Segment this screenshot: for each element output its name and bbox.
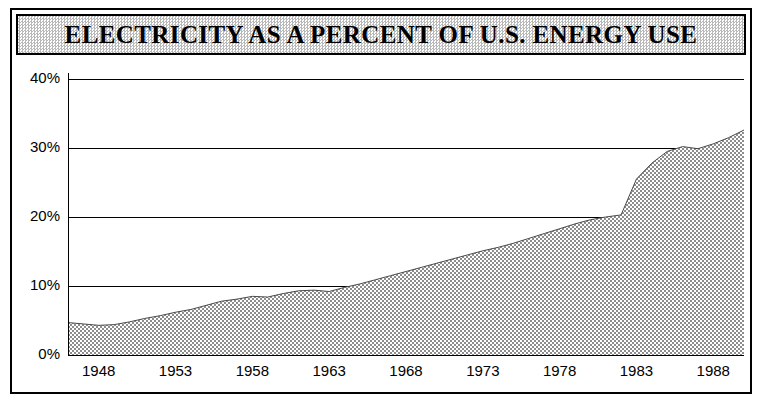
y-tick-10%: 10% [30, 276, 60, 293]
y-tick-30%: 30% [30, 138, 60, 155]
y-tick-0%: 0% [38, 345, 60, 362]
x-tick-1978: 1978 [543, 362, 576, 379]
y-tick-20%: 20% [30, 207, 60, 224]
y-axis-tick-labels: 0%10%20%30%40% [30, 69, 60, 362]
x-tick-1963: 1963 [312, 362, 345, 379]
chart-title-band: ELECTRICITY AS A PERCENT OF U.S. ENERGY … [16, 14, 746, 55]
x-tick-1988: 1988 [697, 362, 730, 379]
x-tick-1973: 1973 [466, 362, 499, 379]
plot-area: 0%10%20%30%40% 1948195319581963196819731… [16, 62, 746, 387]
page-title: ELECTRICITY AS A PERCENT OF U.S. ENERGY … [61, 22, 702, 47]
area-fill [68, 130, 744, 355]
x-tick-1983: 1983 [620, 362, 653, 379]
x-tick-1948: 1948 [82, 362, 115, 379]
x-tick-1958: 1958 [236, 362, 269, 379]
x-axis-tick-labels: 194819531958196319681973197819831988 [82, 362, 730, 379]
y-tick-40%: 40% [30, 69, 60, 86]
data-area-series [68, 130, 744, 355]
area-chart-svg: 0%10%20%30%40% 1948195319581963196819731… [16, 62, 746, 387]
chart-figure: ELECTRICITY AS A PERCENT OF U.S. ENERGY … [0, 0, 762, 403]
x-tick-1968: 1968 [389, 362, 422, 379]
x-tick-1953: 1953 [159, 362, 192, 379]
